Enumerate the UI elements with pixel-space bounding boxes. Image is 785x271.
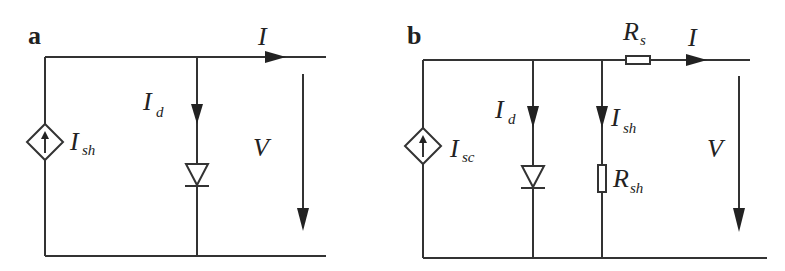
voltage-arrow-icon: [733, 76, 745, 232]
diode-icon: [521, 166, 545, 188]
svg-text:s: s: [640, 32, 646, 48]
svg-text:I: I: [610, 103, 621, 132]
diode-current-label: I d: [142, 87, 164, 120]
series-resistor-icon: [626, 56, 650, 64]
output-current-label: I: [257, 22, 268, 51]
svg-text:sc: sc: [462, 149, 475, 165]
svg-text:I: I: [142, 87, 153, 116]
diode-current-arrow-icon: [191, 104, 203, 124]
voltage-arrow-icon: [297, 74, 309, 231]
panel-b-label: b: [407, 21, 421, 50]
panel-a: a I sh I d I: [27, 21, 326, 256]
diode-current-label: I d: [494, 95, 516, 127]
svg-text:R: R: [612, 164, 629, 193]
shunt-current-arrow-icon: [596, 106, 608, 128]
shunt-current-label: I sh: [610, 103, 636, 136]
svg-text:I: I: [69, 127, 80, 156]
svg-text:I: I: [449, 134, 460, 163]
source-current-label: I sc: [449, 134, 475, 165]
output-current-arrow-icon: [265, 51, 286, 63]
svg-text:d: d: [156, 104, 164, 120]
panel-a-label: a: [28, 21, 41, 50]
diode-icon: [185, 164, 209, 186]
output-current-label: I: [687, 23, 698, 52]
circuit-figure: a I sh I d I: [0, 0, 785, 271]
series-resistor-label: R s: [622, 17, 646, 48]
dependent-current-source-icon: [405, 128, 441, 164]
dependent-current-source-icon: [27, 124, 63, 160]
svg-text:sh: sh: [82, 142, 95, 158]
voltage-label: V: [253, 133, 272, 162]
shunt-resistor-label: R sh: [612, 164, 643, 196]
svg-text:I: I: [494, 95, 505, 124]
output-current-arrow-icon: [686, 54, 707, 66]
svg-text:d: d: [508, 111, 516, 127]
panel-b: b I sc I d: [405, 17, 767, 258]
shunt-resistor-icon: [598, 165, 606, 192]
svg-text:R: R: [622, 17, 639, 46]
diode-current-arrow-icon: [527, 106, 539, 128]
voltage-label: V: [707, 134, 726, 163]
svg-text:sh: sh: [630, 180, 643, 196]
source-current-label: I sh: [69, 127, 95, 158]
svg-text:sh: sh: [623, 120, 636, 136]
